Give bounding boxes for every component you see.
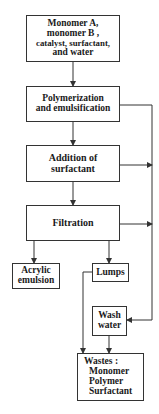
node-wash-water: Wash water [92, 306, 127, 336]
node-text: water [98, 321, 121, 331]
arrow-lumps-to-wastes [83, 272, 92, 353]
node-text: Lumps [96, 268, 125, 278]
node-text: Filtration [52, 218, 93, 229]
side-bus-line [120, 105, 152, 320]
node-text: surfactant [51, 164, 95, 175]
node-acrylic-emulsion: Acrylic emulsion [12, 263, 60, 289]
node-polymerization: Polymerization and emulsification [26, 86, 120, 122]
node-text: Addition of [49, 153, 98, 164]
node-addition: Addition of surfactant [26, 145, 120, 182]
node-inputs: Monomer A, monomer B , catalyst, surfact… [26, 15, 120, 62]
node-lumps: Lumps [92, 263, 129, 282]
node-text: and water [53, 48, 94, 58]
node-text: and emulsification [36, 104, 111, 114]
node-filtration: Filtration [26, 205, 120, 241]
node-text: emulsion [18, 276, 54, 286]
waste-item: Surfactant [84, 387, 132, 397]
node-wastes: Wastes : Monomer Polymer Surfactant [77, 353, 144, 401]
